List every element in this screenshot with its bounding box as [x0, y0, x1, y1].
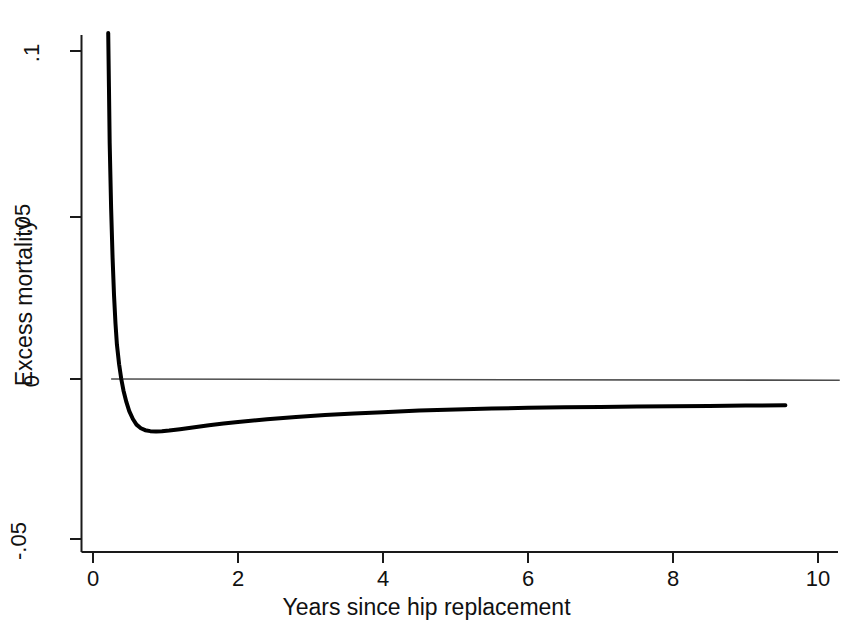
excess-mortality-curve [108, 33, 785, 432]
x-tick-label-4: 4 [353, 566, 413, 592]
x-tick-label-0: 0 [63, 566, 123, 592]
zero-reference-line [111, 379, 840, 380]
x-tick-label-10: 10 [788, 566, 848, 592]
x-tick-label-8: 8 [643, 566, 703, 592]
x-tick-label-2: 2 [208, 566, 268, 592]
x-axis-title: Years since hip replacement [0, 594, 853, 621]
x-tick-label-6: 6 [498, 566, 558, 592]
y-axis-title: Excess mortality [11, 23, 38, 583]
chart-figure: .1 .05 0 -.05 0 2 4 6 8 10 Years since h… [0, 0, 853, 635]
chart-plot-area [0, 0, 853, 635]
x-axis-ticks [93, 552, 818, 563]
y-axis-ticks [70, 51, 82, 539]
